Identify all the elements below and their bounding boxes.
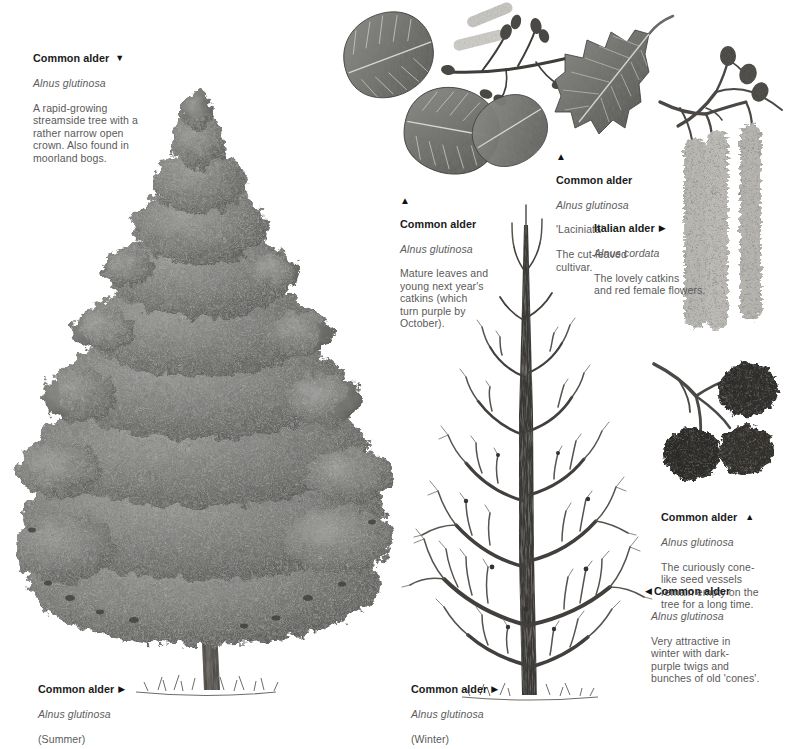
caption-species: Alnus glutinosa <box>411 708 551 720</box>
caption-species: Alnus cordata <box>594 247 744 259</box>
caption-title: Common alder <box>556 174 686 186</box>
marker-up-icon: ▲ <box>745 513 754 522</box>
caption-body: (Summer) <box>38 733 178 745</box>
caption-title: Common alder▼ <box>33 52 183 64</box>
caption-body: A rapid-growing streamside tree with a r… <box>33 102 183 164</box>
marker-right-icon: ▶ <box>659 224 666 233</box>
caption-title: Common alder▶ <box>411 683 551 695</box>
caption-summer-label: Common alder▶ Alnus glutinosa (Summer) <box>38 671 178 749</box>
caption-italian-alder: Italian alder▶ Alnus cordata The lovely … <box>594 210 744 309</box>
caption-species: Alnus glutinosa <box>400 243 520 255</box>
caption-body: Mature leaves and young next year's catk… <box>400 267 520 329</box>
caption-body: The lovely catkins and red female flower… <box>594 272 744 297</box>
caption-species: Alnus glutinosa <box>661 536 789 548</box>
leaf-spray-leaves <box>332 1 560 184</box>
caption-title: Common alder▲ <box>661 511 789 523</box>
caption-title: ◀Common alder <box>645 585 790 597</box>
caption-title: Common alder <box>400 218 520 230</box>
laciniata-petiole <box>649 16 673 34</box>
caption-species: Alnus glutinosa <box>33 77 183 89</box>
marker-right-icon: ▶ <box>118 685 125 694</box>
caption-title: Common alder▶ <box>38 683 178 695</box>
marker-up-icon: ▲ <box>400 197 520 204</box>
caption-body: (Winter) <box>411 733 551 745</box>
caption-species: Alnus glutinosa <box>651 610 790 622</box>
caption-species: Alnus glutinosa <box>38 708 178 720</box>
caption-winter-label: Common alder▶ Alnus glutinosa (Winter) <box>411 671 551 749</box>
marker-right-icon: ▶ <box>491 685 498 694</box>
caption-leaves-catkins: ▲ Common alder Alnus glutinosa Mature le… <box>400 185 520 342</box>
cone-cluster-cones <box>660 357 783 484</box>
marker-left-icon: ◀ <box>645 587 652 596</box>
caption-body: Very attractive in winter with dark- pur… <box>651 635 790 685</box>
italian-catkins-twig <box>660 102 752 140</box>
marker-up-icon: ▲ <box>556 153 686 160</box>
cone-cluster-illustration <box>650 358 790 493</box>
caption-summer-tree-top: Common alder▼ Alnus glutinosa A rapid-gr… <box>33 40 183 176</box>
laciniata-blade <box>555 30 649 134</box>
caption-title: Italian alder▶ <box>594 222 744 234</box>
leaf-spray-illustration <box>330 0 580 190</box>
marker-down-icon: ▼ <box>115 54 124 63</box>
caption-winter-detail: ◀Common alder Alnus glutinosa Very attra… <box>645 573 790 697</box>
